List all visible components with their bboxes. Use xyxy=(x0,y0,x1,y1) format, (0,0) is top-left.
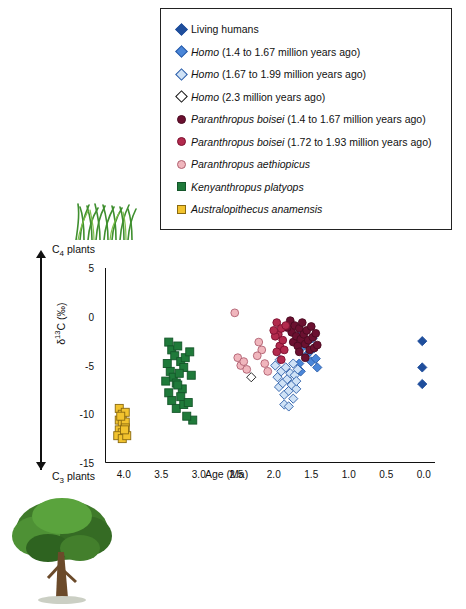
data-point xyxy=(418,363,427,372)
data-point xyxy=(243,366,251,374)
series-diamond xyxy=(418,337,427,389)
x-tick-label: 0.5 xyxy=(379,469,393,480)
x-tick-label: 2.0 xyxy=(267,469,281,480)
legend-item: Living humans xyxy=(171,18,443,41)
data-point xyxy=(168,397,176,405)
x-tick-label: 3.0 xyxy=(192,469,206,480)
circle-marker-icon xyxy=(171,137,191,146)
grass-illustration xyxy=(68,196,142,240)
legend-item: Kenyanthropus platyops xyxy=(171,176,443,199)
data-point xyxy=(255,338,263,346)
data-point xyxy=(301,354,309,362)
legend-item-label: Paranthropus boisei (1.4 to 1.67 million… xyxy=(191,113,426,125)
axis-lines xyxy=(106,268,436,463)
y-tick-label: -10 xyxy=(68,409,94,420)
series-circle xyxy=(231,309,272,375)
circle-marker-icon xyxy=(171,160,191,169)
data-point xyxy=(172,404,180,412)
data-point xyxy=(289,394,298,403)
legend-item-label: Paranthropus aethiopicus xyxy=(191,158,310,170)
data-point xyxy=(175,369,183,377)
data-point xyxy=(247,373,256,382)
diamond-marker-icon xyxy=(171,70,191,79)
data-point xyxy=(282,322,290,330)
legend-item: Paranthropus boisei (1.72 to 1.93 millio… xyxy=(171,131,443,154)
legend: Living humansHomo (1.4 to 1.67 million y… xyxy=(160,8,452,230)
data-point xyxy=(163,360,171,368)
legend-item: Homo (1.67 to 1.99 million years ago) xyxy=(171,63,443,86)
data-point xyxy=(174,381,182,389)
y-axis-label: δ13C (‰) xyxy=(53,329,67,345)
data-point xyxy=(261,360,269,368)
legend-item: Paranthropus aethiopicus xyxy=(171,153,443,176)
data-point xyxy=(174,342,182,350)
data-point xyxy=(253,352,261,360)
series-square xyxy=(162,338,197,424)
x-tick-label: 1.0 xyxy=(342,469,356,480)
data-point xyxy=(240,358,248,366)
diamond-marker-icon xyxy=(171,92,191,101)
data-point xyxy=(298,319,306,327)
series-diamond xyxy=(247,373,256,382)
x-tick-label: 4.0 xyxy=(117,469,131,480)
data-point xyxy=(165,389,173,397)
data-point xyxy=(277,356,285,364)
legend-item-label: Paranthropus boisei (1.72 to 1.93 millio… xyxy=(191,136,431,148)
square-marker-icon xyxy=(171,205,191,214)
x-tick-label: 1.5 xyxy=(304,469,318,480)
data-point xyxy=(279,336,287,344)
legend-item-label: Living humans xyxy=(191,23,259,35)
square-marker-icon xyxy=(171,182,191,191)
data-point xyxy=(183,412,191,420)
data-point xyxy=(165,338,173,346)
c4-plants-label: C4 plants xyxy=(52,243,95,258)
data-point xyxy=(162,377,170,385)
data-point xyxy=(295,348,303,356)
data-point xyxy=(418,379,427,388)
arrow-head-up-icon xyxy=(36,250,46,258)
axis-arrow-line xyxy=(40,258,42,470)
data-point xyxy=(121,426,129,434)
legend-item-label: Homo (1.4 to 1.67 million years ago) xyxy=(191,46,360,58)
data-point xyxy=(273,348,281,356)
plot-axes xyxy=(105,268,435,463)
data-point xyxy=(117,412,125,420)
data-point xyxy=(280,346,288,354)
data-point xyxy=(312,329,320,337)
legend-item-label: Kenyanthropus platyops xyxy=(191,181,304,193)
x-tick-label: 0.0 xyxy=(417,469,431,480)
circle-marker-icon xyxy=(171,115,191,124)
legend-item-label: Homo (2.3 million years ago) xyxy=(191,91,325,103)
legend-item-label: Australopithecus anamensis xyxy=(191,203,322,215)
series-diamond xyxy=(271,355,303,411)
data-point xyxy=(264,367,272,375)
legend-item: Paranthropus boisei (1.4 to 1.67 million… xyxy=(171,108,443,131)
diamond-marker-icon xyxy=(171,25,191,34)
data-point xyxy=(270,327,278,335)
data-point xyxy=(313,341,321,349)
y-tick-label: -15 xyxy=(68,458,94,469)
legend-item-label: Homo (1.67 to 1.99 million years ago) xyxy=(191,68,366,80)
data-point xyxy=(177,393,185,401)
y-tick-label: 5 xyxy=(68,263,94,274)
data-point xyxy=(418,337,427,346)
scatter-plot xyxy=(105,268,435,463)
data-point xyxy=(307,323,315,331)
data-point xyxy=(231,309,239,317)
data-point xyxy=(313,363,322,372)
y-tick-label: 0 xyxy=(68,311,94,322)
x-tick-label: 2.5 xyxy=(229,469,243,480)
c3-plants-label: C3 plants xyxy=(52,470,95,485)
diamond-marker-icon xyxy=(171,47,191,56)
x-tick-label: 3.5 xyxy=(154,469,168,480)
tree-illustration xyxy=(4,486,120,604)
data-point xyxy=(187,371,195,379)
y-tick-label: -5 xyxy=(68,360,94,371)
series-square xyxy=(114,404,131,442)
arrow-head-down-icon xyxy=(36,462,46,470)
legend-item: Homo (2.3 million years ago) xyxy=(171,86,443,109)
legend-item: Homo (1.4 to 1.67 million years ago) xyxy=(171,41,443,64)
data-point xyxy=(186,348,194,356)
data-point xyxy=(184,399,192,407)
legend-item: Australopithecus anamensis xyxy=(171,198,443,221)
